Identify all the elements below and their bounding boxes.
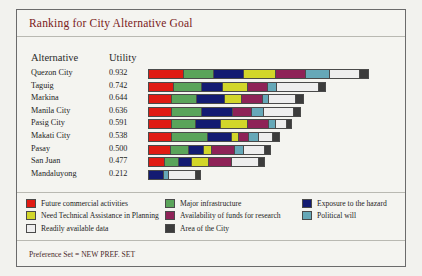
bar-segment [149, 133, 172, 141]
bar-segment [196, 171, 200, 179]
table-row[interactable]: Manila City0.636 [17, 106, 405, 119]
legend-column-3: Exposure to the hazardPolitical will [302, 197, 387, 222]
legend-label: Exposure to the hazard [317, 199, 387, 208]
utility-value: 0.212 [109, 169, 139, 178]
legend-item[interactable]: Political will [302, 210, 387, 223]
ranking-rows: Quezon City0.932Taguig0.742Markina0.644M… [17, 68, 405, 181]
bar-segment [172, 120, 195, 128]
legend-item[interactable]: Availability of funds for research [165, 210, 281, 223]
bar-segment [239, 133, 249, 141]
utility-value: 0.644 [109, 93, 139, 102]
bar-segment [214, 70, 244, 78]
table-row[interactable]: Quezon City0.932 [17, 68, 405, 81]
bar-segment [223, 83, 248, 91]
chart-legend: Future commercial activitiesNeed Technic… [17, 192, 405, 244]
legend-column-2: Major infrastructureAvailability of fund… [165, 197, 281, 235]
bar-segment [149, 95, 172, 103]
stacked-bar[interactable] [148, 94, 304, 104]
bar-segment [248, 120, 268, 128]
bar-segment [171, 146, 190, 154]
table-row[interactable]: Mandaluyong0.212 [17, 169, 405, 182]
bar-segment [209, 158, 232, 166]
legend-label: Need Technical Assistance in Planning [41, 211, 159, 220]
alternative-name: Makati City [31, 131, 70, 140]
bar-segment [184, 70, 214, 78]
bar-segment [248, 83, 268, 91]
bar-segment [306, 70, 329, 78]
bar-segment [233, 108, 252, 116]
bar-segment [242, 95, 264, 103]
alternative-name: Taguig [31, 81, 54, 90]
legend-swatch-icon [165, 211, 175, 220]
legend-item[interactable]: Need Technical Assistance in Planning [26, 210, 159, 223]
bar-segment [273, 133, 279, 141]
utility-value: 0.591 [109, 118, 139, 127]
bar-segment [296, 95, 302, 103]
bar-segment [221, 120, 249, 128]
legend-label: Major infrastructure [180, 199, 241, 208]
legend-label: Readily available data [41, 224, 108, 233]
bar-segment [174, 83, 202, 91]
bar-segment [249, 133, 259, 141]
bar-segment [149, 120, 172, 128]
bar-segment [276, 70, 306, 78]
legend-item[interactable]: Area of the City [165, 222, 281, 235]
application-window: Ranking for City Alternative Goal Altern… [0, 0, 422, 276]
bar-segment [294, 108, 300, 116]
stacked-bar[interactable] [148, 119, 292, 129]
bar-segment [264, 108, 295, 116]
legend-item[interactable]: Readily available data [26, 222, 159, 235]
bar-segment [172, 108, 203, 116]
legend-swatch-icon [302, 211, 312, 220]
stacked-bar[interactable] [148, 107, 301, 117]
preference-set-status: Preference Set = NEW PREF. SET [29, 250, 135, 259]
bar-segment [179, 158, 192, 166]
table-row[interactable]: Makati City0.538 [17, 131, 405, 144]
legend-swatch-icon [165, 224, 175, 233]
stacked-bar[interactable] [148, 132, 280, 142]
table-row[interactable]: Pasig City0.591 [17, 118, 405, 131]
stacked-bar[interactable] [148, 82, 326, 92]
bar-segment [287, 120, 291, 128]
stacked-bar[interactable] [148, 145, 271, 155]
legend-swatch-icon [165, 199, 175, 208]
bar-segment [204, 146, 212, 154]
bar-segment [268, 83, 277, 91]
legend-swatch-icon [302, 199, 312, 208]
legend-item[interactable]: Major infrastructure [165, 197, 281, 210]
bar-segment [244, 146, 265, 154]
bar-segment [252, 108, 264, 116]
bar-segment [319, 83, 325, 91]
legend-column-1: Future commercial activitiesNeed Technic… [26, 197, 159, 235]
bar-segment [225, 95, 242, 103]
utility-value: 0.636 [109, 106, 139, 115]
stacked-bar[interactable] [148, 157, 265, 167]
legend-item[interactable]: Future commercial activities [26, 197, 159, 210]
bar-segment [276, 120, 287, 128]
legend-item[interactable]: Exposure to the hazard [302, 197, 387, 210]
bar-segment [165, 158, 180, 166]
bar-segment [202, 108, 233, 116]
bar-segment [244, 70, 276, 78]
legend-label: Area of the City [180, 224, 229, 233]
bar-segment [149, 171, 164, 179]
bar-segment [259, 133, 273, 141]
stacked-bar[interactable] [148, 170, 201, 180]
legend-label: Political will [317, 211, 356, 220]
bar-segment [192, 158, 209, 166]
bar-segment [269, 120, 276, 128]
table-row[interactable]: Markina0.644 [17, 93, 405, 106]
table-row[interactable]: Taguig0.742 [17, 81, 405, 94]
legend-swatch-icon [26, 199, 36, 208]
alternative-name: Pasay [31, 144, 50, 153]
utility-value: 0.742 [109, 81, 139, 90]
alternative-name: San Juan [31, 156, 60, 165]
bar-segment [277, 83, 319, 91]
title-divider [17, 36, 405, 37]
legend-swatch-icon [26, 224, 36, 233]
bar-segment [149, 70, 184, 78]
table-row[interactable]: Pasay0.500 [17, 144, 405, 157]
stacked-bar[interactable] [148, 69, 369, 79]
table-row[interactable]: San Juan0.477 [17, 156, 405, 169]
utility-value: 0.932 [109, 68, 139, 77]
